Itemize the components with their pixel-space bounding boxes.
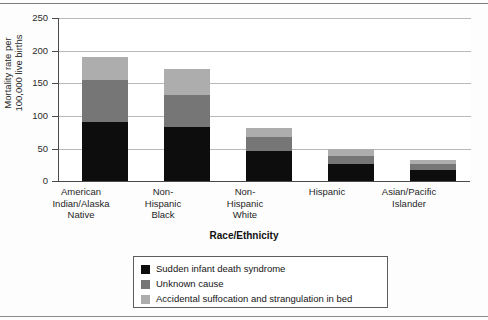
chart-legend: Sudden infant death syndrome Unknown cau… [133,256,388,308]
legend-label-accidental-suffocation: Accidental suffocation and strangulation… [156,294,352,304]
bar-segment [328,156,374,164]
legend-label-sids: Sudden infant death syndrome [156,264,285,274]
bar-segment [246,128,292,137]
chart-figure: Mortality rate per 100,000 live births 2… [0,0,488,320]
y-tick-label-250: 250 [14,13,48,23]
gridline-200 [59,51,471,52]
x-tick-label-non-hispanic-white: Non- Hispanic White [199,186,291,221]
bar-segment [328,164,374,182]
legend-swatch-unknown-cause [141,280,150,289]
legend-item-accidental-suffocation: Accidental suffocation and strangulation… [141,292,381,306]
bar-segment [82,57,128,80]
bar-segment [164,127,210,182]
page-rule-top [0,3,488,4]
bar-segment [82,122,128,182]
x-tick-label-american-indian-alaska-native: American Indian/Alaska Native [35,186,127,221]
bar-non-hispanic-white [246,128,292,182]
bar-american-indian-alaska-native [82,57,128,182]
bar-segment [164,69,210,95]
bar-segment [246,137,292,151]
gridline-250 [59,18,471,19]
legend-swatch-sids [141,265,150,274]
bar-segment [82,80,128,121]
page-rule-bottom [0,316,488,317]
bar-hispanic [328,149,374,182]
y-tick-label-150: 150 [14,78,48,88]
bar-asian-pacific-islander [410,160,456,182]
legend-swatch-accidental-suffocation [141,295,150,304]
x-tick-label-asian-pacific-islander: Asian/Pacific Islander [363,186,455,209]
bar-segment [246,151,292,182]
y-tick-label-200: 200 [14,46,48,56]
plot-area [58,18,470,182]
bar-non-hispanic-black [164,69,210,182]
x-tick-label-non-hispanic-black: Non- Hispanic Black [117,186,209,221]
bar-segment [164,95,210,126]
legend-item-sids: Sudden infant death syndrome [141,262,381,276]
y-tick-label-0: 0 [14,176,48,186]
x-tick-label-hispanic: Hispanic [281,186,373,198]
x-axis-title: Race/Ethnicity [0,230,488,241]
y-tick-label-50: 50 [14,144,48,154]
legend-label-unknown-cause: Unknown cause [156,279,224,289]
x-axis-line [58,181,470,182]
y-tick-label-100: 100 [14,111,48,121]
legend-item-unknown-cause: Unknown cause [141,277,381,291]
